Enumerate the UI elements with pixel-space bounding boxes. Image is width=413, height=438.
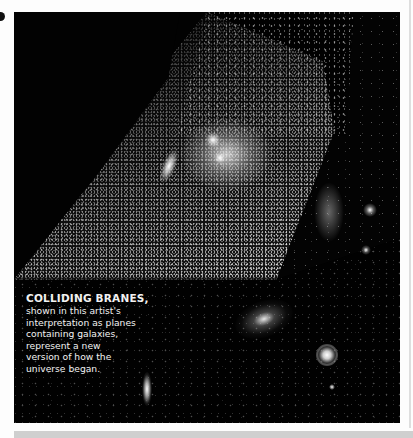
figure-caption: COLLIDING BRANES, shown in this artist's… bbox=[26, 292, 156, 375]
edge-on-galaxy bbox=[142, 372, 152, 406]
bright-star bbox=[363, 203, 377, 217]
caption-line: represent a new bbox=[26, 340, 156, 352]
caption-line: shown in this artist's bbox=[26, 305, 156, 317]
page-marker-dot bbox=[0, 12, 5, 21]
bright-star bbox=[361, 245, 371, 255]
plane-edge-glow bbox=[314, 182, 344, 242]
caption-line: universe began. bbox=[26, 363, 156, 375]
bright-star-cluster bbox=[214, 152, 226, 164]
caption-title: COLLIDING BRANES, bbox=[26, 292, 156, 305]
caption-line: containing galaxies, bbox=[26, 328, 156, 340]
caption-line: version of how the bbox=[26, 351, 156, 363]
bright-star bbox=[329, 384, 335, 390]
bright-star-cluster bbox=[204, 132, 222, 148]
page-right-rule bbox=[409, 0, 411, 428]
bottom-strip bbox=[14, 431, 413, 438]
branes-illustration: COLLIDING BRANES, shown in this artist's… bbox=[14, 12, 400, 423]
spiral-galaxy bbox=[316, 344, 338, 366]
caption-line: interpretation as planes bbox=[26, 317, 156, 329]
central-nebula bbox=[179, 117, 274, 192]
